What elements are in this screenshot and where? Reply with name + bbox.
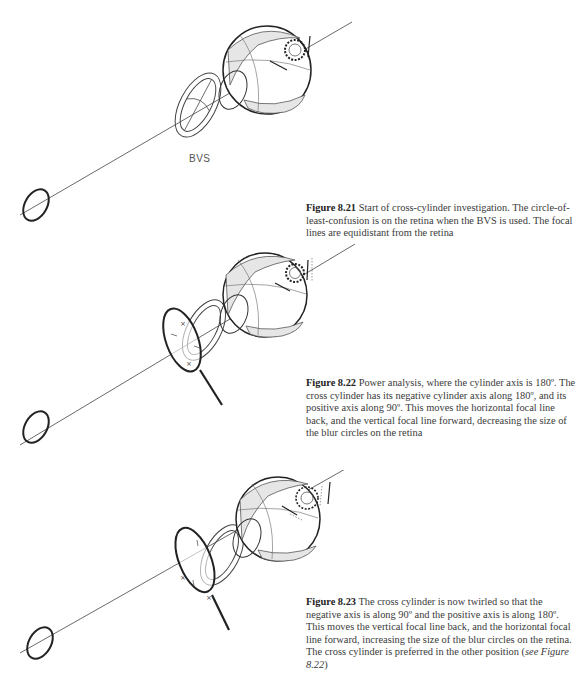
figure-8-23: × × Figure 8.23 The cross cylinder is no… [0, 470, 588, 699]
figure-label: Figure 8.22 [306, 377, 356, 388]
svg-text:×: × [186, 360, 192, 368]
figure-8-21: BVS Figure 8.21 Start of cross-cylinder … [0, 0, 588, 240]
figure-8-23-caption: Figure 8.23 The cross cylinder is now tw… [306, 596, 576, 672]
figure-label: Figure 8.23 [306, 596, 356, 607]
svg-text:×: × [206, 594, 212, 602]
figure-8-22: × × Figure 8.22 Power analysis, where th… [0, 230, 588, 460]
bvs-label: BVS [189, 153, 211, 164]
figure-label: Figure 8.21 [306, 202, 356, 213]
caption-text-end: ) [324, 659, 327, 670]
figure-8-22-caption: Figure 8.22 Power analysis, where the cy… [306, 377, 576, 440]
svg-text:×: × [180, 320, 186, 328]
svg-text:×: × [180, 574, 186, 582]
